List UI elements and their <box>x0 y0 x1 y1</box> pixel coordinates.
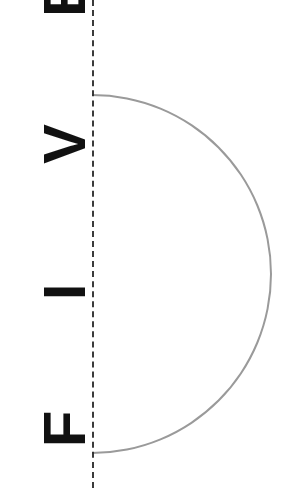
letter-f: F <box>35 381 97 477</box>
letter-i: I <box>35 252 97 332</box>
figure-canvas: F I V E <box>0 0 287 488</box>
arc-band-path <box>92 94 272 454</box>
letter-v: V <box>35 100 97 188</box>
letter-e-clipped: E <box>35 0 97 41</box>
